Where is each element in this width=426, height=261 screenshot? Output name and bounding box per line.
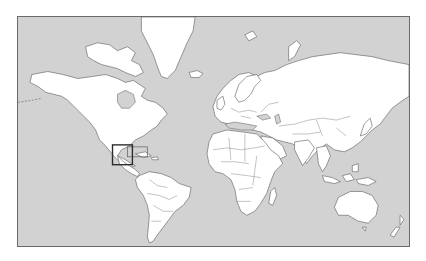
caribbean-islands <box>135 152 158 160</box>
australia <box>334 191 378 223</box>
southeast-asia <box>316 146 330 172</box>
novaya-zemlya <box>289 41 301 61</box>
arctic-archipelago <box>86 43 144 77</box>
indonesia <box>322 164 376 186</box>
central-america <box>117 156 139 177</box>
south-america <box>135 172 191 243</box>
iceland <box>189 71 203 78</box>
new-zealand <box>390 215 404 237</box>
svalbard <box>245 31 257 41</box>
world-map-svg <box>18 17 409 246</box>
date-line <box>18 98 42 102</box>
greenland <box>141 17 195 78</box>
madagascar <box>269 188 277 206</box>
world-map <box>17 16 410 247</box>
tasmania <box>362 227 366 231</box>
india <box>295 140 315 166</box>
